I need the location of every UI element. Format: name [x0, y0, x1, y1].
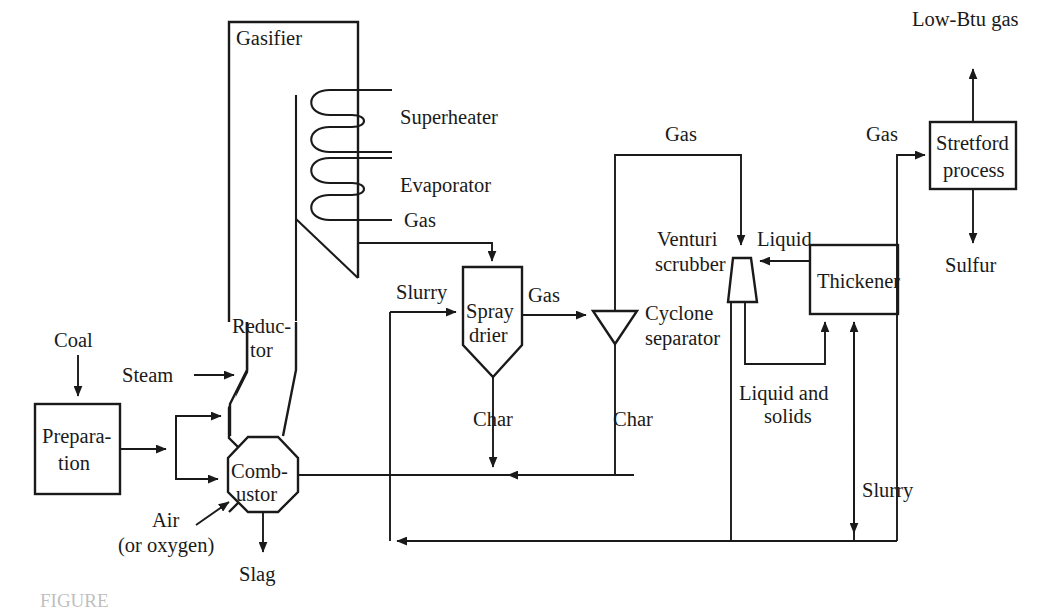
stream-label-liquid-solids-line1: Liquid and	[739, 382, 828, 405]
unit-label-cyclone-line2: separator	[645, 327, 720, 350]
stream-label-gas-drier-out: Gas	[528, 284, 560, 306]
stream-label-air-line1: Air	[152, 509, 180, 531]
stream-label-gas-to-stretford: Gas	[866, 123, 898, 145]
unit-gasifier	[229, 22, 358, 322]
unit-label-reductor-line2: tor	[250, 339, 273, 361]
unit-label-cyclone-line1: Cyclone	[645, 302, 713, 325]
stream-gas-from-gasifier	[358, 243, 492, 261]
stream-label-air-line2: (or oxygen)	[118, 534, 214, 557]
unit-label-evaporator: Evaporator	[400, 174, 491, 197]
unit-venturi-scrubber	[728, 258, 757, 302]
stream-label-coal: Coal	[54, 329, 93, 351]
unit-label-combustor-line2: ustor	[236, 483, 277, 505]
unit-label-venturi-line2: scrubber	[655, 253, 726, 275]
unit-label-combustor-line1: Comb-	[231, 460, 288, 482]
stream-label-liquid: Liquid	[757, 228, 812, 251]
unit-spray-drier	[463, 267, 522, 377]
unit-label-spray-drier-line1: Spray	[466, 300, 515, 323]
unit-label-preparation-line2: tion	[58, 452, 90, 474]
unit-label-stretford-line1: Stretford	[936, 132, 1009, 154]
stream-label-char-cyclone: Char	[613, 408, 653, 430]
stream-label-gas-to-scrubber: Gas	[665, 123, 697, 145]
stream-air	[196, 502, 229, 525]
unit-label-superheater: Superheater	[400, 106, 498, 129]
process-flow-diagram: Gasifier Superheater Evaporator Gas Redu…	[0, 0, 1059, 613]
unit-label-reductor-line1: Reduc-	[232, 315, 291, 337]
unit-cyclone-separator	[593, 311, 637, 344]
stream-label-steam: Steam	[122, 364, 173, 386]
unit-label-preparation-line1: Prepara-	[42, 425, 112, 448]
stream-label-sulfur: Sulfur	[945, 254, 996, 276]
unit-label-stretford-line2: process	[943, 159, 1005, 182]
unit-preparation	[35, 404, 120, 494]
stream-gas-to-stretford	[897, 155, 925, 302]
unit-label-gasifier: Gasifier	[236, 27, 302, 49]
stream-label-liquid-solids-line2: solids	[764, 405, 812, 427]
stream-label-low-btu-gas: Low-Btu gas	[912, 8, 1018, 31]
figure-caption: FIGURE	[40, 590, 109, 611]
unit-label-thickener: Thickener	[817, 270, 900, 292]
stream-label-slurry-recycle: Slurry	[862, 479, 914, 502]
stream-coal-feed-upper	[176, 416, 221, 449]
stream-label-slag: Slag	[239, 563, 275, 586]
stream-label-gas-from-gasifier: Gas	[404, 209, 436, 231]
stream-label-slurry-to-drier: Slurry	[396, 281, 448, 304]
stream-coal-feed-lower	[176, 449, 218, 479]
unit-label-spray-drier-line2: drier	[469, 324, 508, 346]
unit-label-venturi-line1: Venturi	[657, 228, 718, 250]
